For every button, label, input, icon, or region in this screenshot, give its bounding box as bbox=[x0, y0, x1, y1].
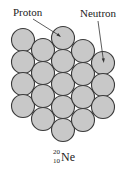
neutron-label: Neutron bbox=[80, 8, 116, 19]
element-symbol: Ne bbox=[61, 151, 75, 163]
nucleon-cluster bbox=[12, 27, 115, 142]
nucleon-circle bbox=[32, 39, 55, 62]
nucleon-circle bbox=[92, 74, 115, 97]
proton-label: Proton bbox=[13, 7, 42, 18]
nucleon-circle bbox=[32, 108, 55, 131]
nucleon-circle bbox=[72, 109, 95, 132]
atomic-number: 10 bbox=[51, 157, 60, 165]
nucleon-circle bbox=[12, 29, 35, 52]
nucleon-circle bbox=[52, 50, 75, 73]
nucleon-circle bbox=[52, 27, 75, 50]
nucleon-circle bbox=[92, 96, 115, 119]
proton-pointer-line bbox=[33, 19, 60, 36]
nucleon-circle bbox=[32, 62, 55, 85]
nucleon-circle bbox=[32, 85, 55, 108]
nucleon-circle bbox=[12, 51, 35, 74]
nucleon-circle bbox=[12, 73, 35, 96]
mass-number: 20 bbox=[51, 148, 60, 156]
nucleon-circle bbox=[72, 63, 95, 86]
nucleon-circle bbox=[12, 95, 35, 118]
nucleon-circle bbox=[52, 96, 75, 119]
isotope-numbers: 20 10 bbox=[51, 148, 60, 165]
nucleon-circle bbox=[52, 73, 75, 96]
nucleon-circle bbox=[52, 119, 75, 142]
nucleus-illustration bbox=[0, 0, 130, 171]
isotope-notation: 20 10 Ne bbox=[51, 148, 81, 168]
nucleon-circle bbox=[72, 40, 95, 63]
neon-nucleus-diagram: Proton Neutron 20 10 Ne bbox=[0, 0, 130, 171]
nucleon-circle bbox=[72, 86, 95, 109]
